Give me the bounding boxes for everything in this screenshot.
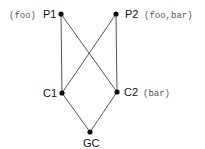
node-c2 (114, 89, 119, 94)
node-c1 (59, 90, 64, 95)
c2-label: C2 (124, 86, 138, 98)
edge-p1-c1 (61, 14, 62, 93)
edge-c2-gc (90, 92, 117, 132)
diagram-canvas: (foo) P1 P2 (foo,bar) C1 C2 (bar) GC (0, 0, 205, 149)
edge-p2-c2 (116, 14, 117, 92)
node-p1 (58, 11, 63, 16)
p1-annotation: (foo) (9, 11, 36, 21)
edge-c1-gc (62, 93, 90, 132)
c1-label: C1 (43, 87, 57, 99)
node-gc (87, 129, 92, 134)
p2-annotation: (foo,bar) (144, 11, 193, 21)
gc-label: GC (83, 137, 100, 149)
node-p2 (113, 11, 118, 16)
p1-label: P1 (43, 8, 56, 20)
lattice-diagram: (foo) P1 P2 (foo,bar) C1 C2 (bar) GC (0, 0, 205, 149)
c2-annotation: (bar) (143, 89, 170, 99)
p2-label: P2 (125, 8, 138, 20)
